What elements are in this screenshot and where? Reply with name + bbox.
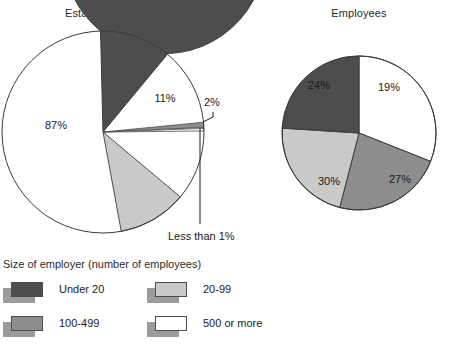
slice-label-establishments-11: 11%: [154, 92, 175, 104]
slice-label-establishments-2: 2%: [204, 96, 220, 108]
slice-label-establishments-less-than-1: Less than 1%: [168, 230, 235, 242]
legend-swatch-face: [11, 282, 43, 297]
slice-label-employees-24: 24%: [308, 79, 330, 91]
legend-swatch-face: [11, 316, 43, 331]
legend-title: Size of employer (number of employees): [3, 258, 201, 270]
leader-line-2-percent: [203, 112, 213, 122]
legend: Size of employer (number of employees) U…: [0, 258, 464, 352]
pie-establishments: 87% 11% 2% Less than 1%: [2, 0, 265, 242]
slice-label-establishments-87: 87%: [45, 119, 67, 131]
slice-establishments-20-99: [103, 132, 180, 231]
slice-label-employees-30: 30%: [318, 175, 340, 187]
slice-employees-under-20: [282, 56, 359, 133]
legend-label-100-499: 100-499: [59, 317, 99, 329]
legend-label-20-99: 20-99: [203, 283, 231, 295]
pie-chart-figure: Establishments Employees 87% 11% 2% Less…: [0, 0, 464, 352]
legend-swatch-20-99: [147, 282, 193, 308]
legend-swatch-500-or-more: [147, 316, 193, 342]
slice-label-employees-27: 27%: [389, 173, 411, 185]
legend-swatch-face: [155, 316, 187, 331]
legend-label-500-or-more: 500 or more: [203, 317, 262, 329]
legend-swatch-face: [155, 282, 187, 297]
slice-establishments-under-20: [63, 0, 265, 132]
legend-swatch-under-20: [3, 282, 49, 308]
pie-employees: 19% 27% 30% 24%: [282, 56, 436, 210]
legend-swatch-100-499: [3, 316, 49, 342]
slice-label-employees-19: 19%: [378, 81, 400, 93]
legend-label-under-20: Under 20: [59, 283, 104, 295]
